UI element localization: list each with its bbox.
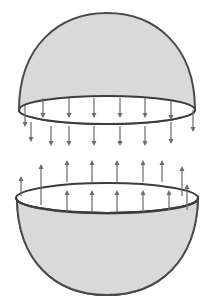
lower-hemisphere (16, 160, 198, 295)
up-arrow-icon (160, 160, 165, 182)
down-arrow-icon (118, 126, 123, 146)
upper-hemisphere (19, 13, 196, 146)
lower-hemisphere-front-wall (17, 200, 198, 295)
up-arrow-icon (90, 160, 95, 182)
split-sphere-diagram (0, 0, 212, 305)
down-arrow-icon (67, 126, 72, 146)
down-arrow-icon (143, 126, 148, 146)
up-arrow-icon (65, 160, 70, 182)
down-arrow-icon (49, 126, 54, 146)
upper-hemisphere-rim (19, 96, 195, 124)
up-arrow-icon (115, 160, 120, 182)
up-arrow-icon (141, 160, 146, 182)
down-arrow-icon (169, 122, 174, 144)
down-arrow-icon (92, 126, 97, 146)
down-arrow-icon (29, 122, 34, 142)
